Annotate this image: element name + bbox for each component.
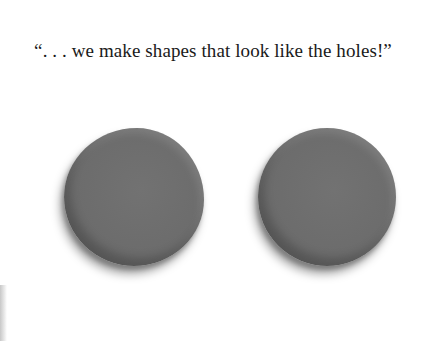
caption-text: “. . . we make shapes that look like the… <box>0 40 426 62</box>
page-edge-shadow <box>0 285 7 341</box>
left-round-shape <box>64 128 204 266</box>
right-round-shape <box>258 128 396 266</box>
